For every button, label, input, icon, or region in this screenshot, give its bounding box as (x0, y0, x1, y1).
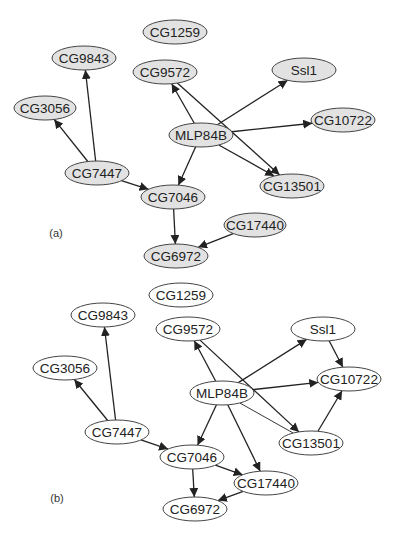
node-CG9572[interactable]: CG9572 (133, 60, 197, 84)
edge-MLP84B-to-Ssl1 (238, 339, 306, 382)
node-CG17440[interactable]: CG17440 (224, 213, 286, 237)
edges (74, 327, 343, 501)
node-CG1259[interactable]: CG1259 (149, 283, 213, 307)
node-label: CG1259 (150, 25, 200, 40)
edge-CG7046-to-CG6972 (193, 469, 195, 497)
node-label: CG17440 (237, 476, 295, 491)
edge-CG7447-to-CG9843 (104, 327, 115, 420)
edge-MLP84B-to-CG7046 (178, 147, 195, 185)
node-label: CG7447 (92, 425, 142, 440)
edge-MLP84B-to-CG17440 (228, 405, 260, 471)
node-label: CG3056 (40, 361, 90, 376)
edge-MLP84B-to-CG10722 (253, 382, 319, 389)
node-label: CG10722 (320, 372, 378, 387)
node-CG3056[interactable]: CG3056 (14, 96, 76, 120)
node-CG9572[interactable]: CG9572 (156, 317, 220, 341)
node-Ssl1[interactable]: Ssl1 (272, 58, 336, 82)
node-label: Ssl1 (310, 322, 336, 337)
node-label: CG10722 (314, 113, 372, 128)
node-label: CG6972 (170, 502, 220, 517)
node-Ssl1[interactable]: Ssl1 (291, 317, 355, 341)
panel-label: (b) (50, 492, 63, 504)
node-label: CG7447 (72, 166, 122, 181)
edge-CG7447-to-CG3056 (54, 119, 88, 161)
panel-1: CG1259CG9843CG9572Ssl1CG3056MLP84BCG1072… (33, 283, 381, 521)
edge-MLP84B-to-Ssl1 (217, 80, 287, 124)
node-label: Ssl1 (291, 63, 317, 78)
node-CG7447[interactable]: CG7447 (85, 420, 149, 444)
edge-CG17440-to-CG6972 (198, 234, 233, 248)
edge-MLP84B-to-CG13501 (219, 145, 274, 176)
node-CG9843[interactable]: CG9843 (71, 303, 135, 327)
panel-label: (a) (49, 227, 62, 239)
nodes: CG1259CG9843CG9572Ssl1CG3056MLP84BCG1072… (14, 20, 375, 268)
node-CG13501[interactable]: CG13501 (260, 174, 324, 198)
node-CG1259[interactable]: CG1259 (143, 20, 207, 44)
node-label: CG1259 (156, 288, 206, 303)
network-diagram: CG1259CG9843CG9572Ssl1CG3056MLP84BCG1072… (0, 0, 402, 536)
nodes: CG1259CG9843CG9572Ssl1CG3056MLP84BCG1072… (33, 283, 381, 521)
edge-MLP84B-to-CG9572 (172, 84, 195, 124)
edge-CG7447-to-CG9843 (85, 70, 95, 161)
node-label: MLP84B (175, 128, 227, 143)
panels-container: CG1259CG9843CG9572Ssl1CG3056MLP84BCG1072… (14, 20, 381, 521)
node-CG7447[interactable]: CG7447 (65, 161, 129, 185)
edge-CG13501-to-CG10722 (318, 391, 342, 432)
node-MLP84B[interactable]: MLP84B (190, 381, 254, 405)
node-label: CG9572 (140, 65, 190, 80)
node-CG6972[interactable]: CG6972 (144, 244, 208, 268)
node-CG3056[interactable]: CG3056 (33, 356, 97, 380)
node-CG10722[interactable]: CG10722 (311, 108, 375, 132)
edge-CG7046-to-CG17440 (215, 465, 242, 475)
edge-MLP84B-to-CG10722 (232, 123, 312, 131)
node-CG17440[interactable]: CG17440 (234, 471, 298, 495)
edge-MLP84B-to-CG7046 (198, 405, 217, 445)
node-label: CG9843 (59, 51, 109, 66)
node-label: CG9843 (78, 308, 128, 323)
node-CG10722[interactable]: CG10722 (317, 367, 381, 391)
edge-CG7447-to-CG7046 (141, 440, 168, 449)
node-CG7046[interactable]: CG7046 (141, 185, 205, 209)
node-MLP84B[interactable]: MLP84B (169, 123, 233, 147)
node-label: CG3056 (20, 101, 70, 116)
edge-CG7046-to-CG6972 (174, 209, 176, 244)
node-label: CG9572 (163, 322, 213, 337)
node-CG9843[interactable]: CG9843 (52, 46, 116, 70)
edge-CG17440-to-CG6972 (218, 491, 243, 500)
node-label: CG7046 (148, 190, 198, 205)
node-label: CG13501 (282, 436, 340, 451)
edge-MLP84B-to-CG9572 (194, 341, 215, 381)
edge-Ssl1-to-CG10722 (329, 341, 343, 367)
edge-CG7447-to-CG3056 (74, 379, 107, 420)
panel-0: CG1259CG9843CG9572Ssl1CG3056MLP84BCG1072… (14, 20, 375, 268)
node-label: CG17440 (226, 218, 284, 233)
node-CG6972[interactable]: CG6972 (163, 497, 227, 521)
node-CG7046[interactable]: CG7046 (160, 445, 224, 469)
node-CG13501[interactable]: CG13501 (279, 431, 343, 455)
node-label: CG7046 (167, 450, 217, 465)
node-label: MLP84B (196, 386, 248, 401)
node-label: CG6972 (151, 249, 201, 264)
edge-MLP84B-to-CG13501 (240, 403, 293, 433)
edge-CG7447-to-CG7046 (121, 181, 148, 190)
node-label: CG13501 (263, 179, 321, 194)
